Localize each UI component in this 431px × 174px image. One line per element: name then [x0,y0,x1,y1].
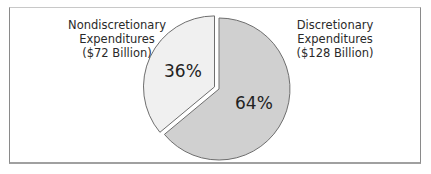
label-line: ($72 Billion) [62,46,172,60]
label-discretionary: Discretionary Expenditures ($128 Billion… [280,18,390,60]
pct-discretionary: 64% [235,93,273,113]
label-line: ($128 Billion) [280,46,390,60]
label-line: Discretionary [280,18,390,32]
label-line: Nondiscretionary [62,18,172,32]
label-line: Expenditures [280,32,390,46]
label-nondiscretionary: Nondiscretionary Expenditures ($72 Billi… [62,18,172,60]
pct-nondiscretionary: 36% [164,61,202,81]
label-line: Expenditures [62,32,172,46]
